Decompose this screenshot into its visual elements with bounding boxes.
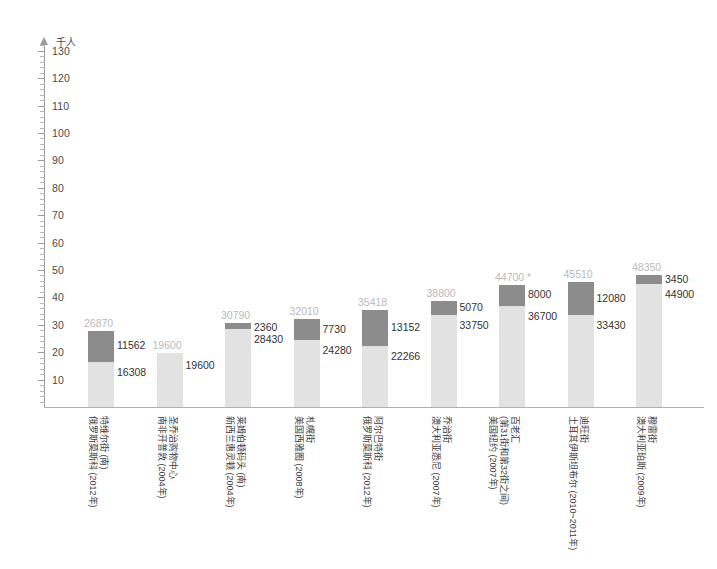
bar-total-label: 32010 xyxy=(290,305,319,317)
y-tick-label: 110 xyxy=(52,100,69,112)
category-label-line: 莱姆伯顿码头 (南) xyxy=(235,416,245,488)
bar-broadway-newyork[interactable] xyxy=(499,285,525,407)
bar-segment-top[interactable] xyxy=(499,285,525,307)
y-tick-minor xyxy=(40,286,45,287)
bar-divan-istanbul[interactable] xyxy=(568,282,594,407)
y-tick-major xyxy=(38,133,45,134)
y-tick-label: 70 xyxy=(52,209,64,221)
bar-segment-top[interactable] xyxy=(294,319,320,340)
y-tick-label: 50 xyxy=(52,264,64,276)
y-tick-minor xyxy=(40,204,45,205)
y-tick-label: 130 xyxy=(52,45,70,57)
category-label-line: 乔治街 xyxy=(441,416,451,443)
y-tick-minor xyxy=(40,128,45,129)
category-label-line: 澳大利亚珀斯 (2009年) xyxy=(635,416,645,508)
bar-segment-bottom[interactable] xyxy=(157,353,183,407)
category-label-line: 圣乔治购物中心 xyxy=(167,416,177,479)
bar-segment-top[interactable] xyxy=(88,331,114,363)
segment-bottom-value-label: 28430 xyxy=(254,333,283,345)
y-tick-major xyxy=(38,325,45,326)
y-tick-minor xyxy=(40,347,45,348)
category-label-line: 澳大利亚悉尼 (2007年) xyxy=(430,416,440,508)
bar-segment-bottom[interactable] xyxy=(88,362,114,407)
segment-top-value-label: 3450 xyxy=(665,273,688,285)
y-tick-minor xyxy=(40,95,45,96)
y-tick-minor xyxy=(40,73,45,74)
y-tick-minor xyxy=(40,166,45,167)
segment-bottom-value-label: 24280 xyxy=(323,344,352,356)
y-tick-minor xyxy=(40,248,45,249)
y-tick-major xyxy=(38,243,45,244)
y-tick-minor xyxy=(40,171,45,172)
segment-bottom-value-label: 44900 xyxy=(665,288,694,300)
y-tick-label: 100 xyxy=(52,127,70,139)
y-tick-minor xyxy=(40,100,45,101)
y-tick-minor xyxy=(40,369,45,370)
bar-segment-bottom[interactable] xyxy=(499,306,525,407)
y-tick-minor xyxy=(40,402,45,403)
y-tick-major xyxy=(38,78,45,79)
y-tick-minor xyxy=(40,155,45,156)
bar-total-label: 30790 xyxy=(221,309,250,321)
bar-st-georges-capetown[interactable] xyxy=(157,353,183,407)
bar-segment-top[interactable] xyxy=(636,275,662,284)
y-tick-minor xyxy=(40,374,45,375)
y-tick-minor xyxy=(40,226,45,227)
y-tick-minor xyxy=(40,319,45,320)
y-tick-label: 90 xyxy=(52,154,64,166)
y-tick-minor xyxy=(40,199,45,200)
y-tick-label: 120 xyxy=(52,72,70,84)
bar-segment-bottom[interactable] xyxy=(225,329,251,407)
bar-segment-top[interactable] xyxy=(568,282,594,315)
y-tick-minor xyxy=(40,363,45,364)
bar-total-label: 38800 xyxy=(427,287,456,299)
y-tick-label: 30 xyxy=(52,319,64,331)
y-tick-minor xyxy=(40,89,45,90)
bar-lambton-wellington[interactable] xyxy=(225,323,251,407)
y-tick-major xyxy=(38,270,45,271)
y-tick-minor xyxy=(40,259,45,260)
bar-segment-bottom[interactable] xyxy=(636,284,662,407)
y-tick-minor xyxy=(40,396,45,397)
bar-sapporo-seattle[interactable] xyxy=(294,319,320,407)
bar-murray-perth[interactable] xyxy=(636,275,662,407)
segment-bottom-value-label: 36700 xyxy=(528,310,557,322)
category-label-line: 俄罗斯莫斯科 (2012年) xyxy=(87,416,97,508)
category-label-line: 南非开普敦 (2004年) xyxy=(156,416,166,499)
y-tick-major xyxy=(38,352,45,353)
stacked-bar-chart: 千人 102030405060708090100110120130 268701… xyxy=(0,0,717,569)
y-tick-minor xyxy=(40,56,45,57)
bar-segment-bottom[interactable] xyxy=(568,315,594,407)
bar-segment-bottom[interactable] xyxy=(431,315,457,407)
y-tick-minor xyxy=(40,111,45,112)
y-tick-minor xyxy=(40,117,45,118)
bar-segment-top[interactable] xyxy=(431,301,457,315)
category-label-line: 俄罗斯莫斯科 (2012年) xyxy=(361,416,371,508)
category-label-line: 穆雷街 xyxy=(646,416,656,443)
y-tick-minor xyxy=(40,341,45,342)
bar-tverskaya-moscow[interactable] xyxy=(88,331,114,407)
bar-segment-top[interactable] xyxy=(362,310,388,346)
segment-bottom-value-label: 16308 xyxy=(117,366,146,378)
category-label-line: 土耳其伊斯坦布尔 (2010~2011年) xyxy=(567,416,577,550)
y-tick-label: 80 xyxy=(52,182,64,194)
y-tick-minor xyxy=(40,265,45,266)
segment-top-value-label: 7730 xyxy=(323,323,346,335)
category-label-line: 美国西雅图 (2008年) xyxy=(293,416,303,499)
y-tick-minor xyxy=(40,254,45,255)
y-tick-minor xyxy=(40,292,45,293)
category-label-line: 札幌街 xyxy=(304,416,314,443)
y-tick-minor xyxy=(40,84,45,85)
bar-segment-bottom[interactable] xyxy=(362,346,388,407)
category-label-line: (第31街和第32街之间) xyxy=(498,416,508,505)
segment-bottom-value-label: 33750 xyxy=(460,319,489,331)
y-tick-minor xyxy=(40,330,45,331)
y-tick-major xyxy=(38,51,45,52)
segment-bottom-value-label: 33430 xyxy=(597,319,626,331)
y-tick-label: 10 xyxy=(52,374,64,386)
y-tick-minor xyxy=(40,122,45,123)
bar-george-sydney[interactable] xyxy=(431,301,457,407)
bar-arbat-moscow[interactable] xyxy=(362,310,388,407)
bar-segment-bottom[interactable] xyxy=(294,340,320,407)
y-tick-minor xyxy=(40,182,45,183)
